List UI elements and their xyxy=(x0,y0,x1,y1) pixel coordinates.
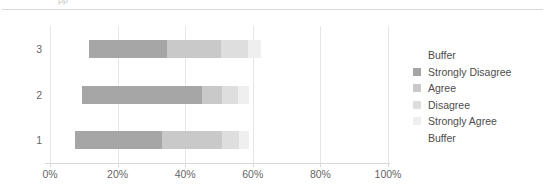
bar-segment[interactable] xyxy=(162,131,223,149)
x-axis-tick-labels: 0%20%40%60%80%100% xyxy=(0,167,420,183)
y-axis-category-label: 1 xyxy=(12,134,42,146)
legend-label: Disagree xyxy=(428,99,470,111)
stacked-bar-chart: 321 0%20%40%60%80%100% BufferStrongly Di… xyxy=(0,11,545,191)
x-axis-tick-label: 60% xyxy=(228,167,278,181)
header-strip: pp xyxy=(0,0,545,11)
legend-label: Buffer xyxy=(428,49,456,61)
legend-swatch xyxy=(413,134,421,142)
legend-item[interactable]: Strongly Agree xyxy=(413,113,543,130)
chart-legend: BufferStrongly DisagreeAgreeDisagreeStro… xyxy=(413,47,543,146)
bar-segment[interactable] xyxy=(89,40,167,58)
legend-label: Agree xyxy=(428,82,456,94)
x-axis-tick-label: 80% xyxy=(295,167,345,181)
x-axis-tick-label: 0% xyxy=(25,167,75,181)
bar-segment[interactable] xyxy=(239,131,249,149)
legend-item[interactable]: Disagree xyxy=(413,97,543,114)
bar-segment[interactable] xyxy=(167,40,221,58)
x-axis-tick-label: 20% xyxy=(93,167,143,181)
legend-item[interactable]: Agree xyxy=(413,80,543,97)
bar-segment[interactable] xyxy=(75,131,161,149)
legend-swatch xyxy=(413,101,421,109)
bar-row[interactable] xyxy=(50,86,388,104)
legend-item[interactable]: Buffer xyxy=(413,47,543,64)
x-axis-tick-label: 40% xyxy=(160,167,210,181)
legend-label: Buffer xyxy=(428,132,456,144)
legend-item[interactable]: Strongly Disagree xyxy=(413,64,543,81)
x-axis-tick-label: 100% xyxy=(363,167,413,181)
bar-segment[interactable] xyxy=(221,40,248,58)
y-axis-category-label: 3 xyxy=(12,43,42,55)
bar-segment[interactable] xyxy=(248,40,262,58)
y-axis-labels: 321 xyxy=(8,26,42,163)
bar-segment[interactable] xyxy=(82,86,202,104)
legend-swatch xyxy=(413,117,421,125)
bar-segment[interactable] xyxy=(202,86,222,104)
legend-swatch xyxy=(413,84,421,92)
legend-label: Strongly Agree xyxy=(428,115,497,127)
legend-item[interactable]: Buffer xyxy=(413,130,543,147)
legend-swatch xyxy=(413,51,421,59)
bar-row[interactable] xyxy=(50,131,388,149)
bar-segment[interactable] xyxy=(238,86,250,104)
x-axis-line xyxy=(45,163,390,164)
bar-segment[interactable] xyxy=(222,86,237,104)
bar-row[interactable] xyxy=(50,40,388,58)
legend-swatch xyxy=(413,68,421,76)
clipped-header-text: pp xyxy=(58,0,68,5)
legend-label: Strongly Disagree xyxy=(428,66,511,78)
gridline xyxy=(388,26,389,163)
header-divider xyxy=(2,9,543,10)
y-axis-category-label: 2 xyxy=(12,89,42,101)
bar-segment[interactable] xyxy=(222,131,239,149)
plot-area xyxy=(50,26,388,163)
